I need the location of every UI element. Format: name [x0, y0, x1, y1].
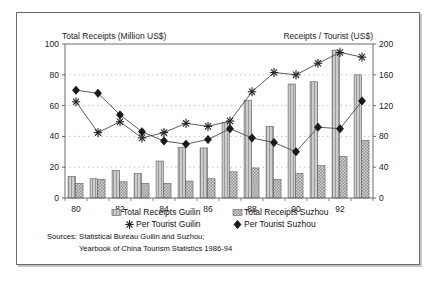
- bar: [354, 75, 361, 198]
- bar: [208, 179, 215, 198]
- legend-label: Total Receipts Suzhou: [244, 207, 329, 217]
- bar: [76, 183, 83, 198]
- star-icon: [125, 220, 133, 229]
- bar: [230, 172, 237, 198]
- bar: [164, 183, 171, 198]
- x-tick-label: 86: [203, 204, 213, 214]
- star-marker: [336, 48, 344, 57]
- right-axis-title: Receipts / Tourist (US$): [283, 31, 373, 41]
- bar: [332, 50, 339, 198]
- right-tick-label: 120: [379, 101, 393, 111]
- legend-label: Total Receipts Guilin: [123, 207, 201, 217]
- star-marker: [292, 70, 300, 79]
- star-marker: [94, 128, 102, 137]
- legend-item[interactable]: Per Tourist Guilin: [125, 219, 201, 229]
- bar-hatch-icon: [112, 210, 121, 216]
- bar: [156, 161, 163, 198]
- bar: [186, 181, 193, 198]
- left-tick-label: 0: [54, 193, 59, 203]
- legend-label: Per Tourist Guilin: [136, 219, 201, 229]
- bar: [120, 182, 127, 198]
- bar: [68, 176, 75, 198]
- bar: [296, 173, 303, 198]
- star-marker: [182, 119, 190, 128]
- right-tick-label: 80: [379, 131, 389, 141]
- x-tick-label: 92: [335, 204, 345, 214]
- legend-item[interactable]: Per Tourist Suzhou: [234, 219, 316, 229]
- bar: [252, 168, 259, 198]
- legend-item[interactable]: Total Receipts Suzhou: [233, 207, 329, 217]
- bar: [310, 82, 317, 198]
- right-tick-label: 160: [379, 70, 393, 80]
- legend-item[interactable]: Total Receipts Guilin: [112, 207, 201, 217]
- star-marker: [248, 87, 256, 96]
- bar: [318, 166, 325, 198]
- left-tick-label: 60: [50, 101, 60, 111]
- bar: [362, 140, 369, 198]
- chart-canvas: Total Receipts (Million US$) Receipts / …: [17, 13, 421, 266]
- bar: [274, 180, 281, 198]
- right-tick-label: 0: [379, 193, 384, 203]
- chart-frame: Total Receipts (Million US$) Receipts / …: [16, 12, 420, 265]
- sources-line-2: Yearbook of China Tourism Statistics 198…: [79, 244, 232, 253]
- bar: [134, 173, 141, 198]
- bar-checker-icon: [233, 210, 242, 216]
- bar: [266, 126, 273, 198]
- bar: [178, 147, 185, 198]
- right-axis-ticks: 04080120160200: [373, 39, 393, 203]
- bar: [90, 179, 97, 198]
- tourism-receipts-chart: Total Receipts (Million US$) Receipts / …: [17, 13, 421, 266]
- bar: [222, 123, 229, 198]
- bar: [244, 100, 251, 198]
- left-tick-label: 20: [50, 162, 60, 172]
- chart-legend: Total Receipts GuilinTotal Receipts Suzh…: [112, 207, 329, 229]
- bar: [142, 183, 149, 198]
- diamond-marker: [160, 137, 167, 145]
- star-marker: [270, 68, 278, 77]
- left-tick-label: 80: [50, 70, 60, 80]
- star-marker: [160, 128, 168, 137]
- right-tick-label: 40: [379, 162, 389, 172]
- star-marker: [204, 122, 212, 131]
- axes: [65, 44, 373, 198]
- bar: [288, 84, 295, 198]
- diamond-marker: [72, 86, 79, 94]
- left-tick-label: 40: [50, 131, 60, 141]
- star-marker: [314, 59, 322, 68]
- gridlines: [65, 75, 373, 167]
- diamond-icon: [234, 220, 241, 228]
- line-series-group: [72, 48, 366, 156]
- left-axis-ticks: 020406080100: [45, 39, 65, 203]
- left-axis-title: Total Receipts (Million US$): [62, 31, 167, 41]
- star-marker: [358, 52, 366, 61]
- diamond-marker: [204, 135, 211, 143]
- bar: [340, 156, 347, 198]
- star-marker: [72, 97, 80, 106]
- bar: [112, 170, 119, 198]
- sources-line-1: Sources: Statistical Bureau Guilin and S…: [47, 232, 204, 241]
- legend-label: Per Tourist Suzhou: [244, 219, 316, 229]
- left-tick-label: 100: [45, 39, 59, 49]
- bar: [98, 180, 105, 198]
- x-tick-label: 80: [71, 204, 81, 214]
- right-tick-label: 200: [379, 39, 393, 49]
- bar: [200, 148, 207, 198]
